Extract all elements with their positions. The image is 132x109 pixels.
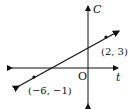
point-neg6-neg1 bbox=[32, 75, 35, 78]
graph-canvas: C O t (2, 3) (−6, −1) bbox=[0, 0, 132, 109]
c-axis-label: C bbox=[93, 3, 102, 16]
point-2-3 bbox=[104, 35, 107, 38]
origin-label: O bbox=[78, 70, 87, 83]
point-label-2-3: (2, 3) bbox=[101, 46, 128, 57]
t-axis-label: t bbox=[116, 71, 121, 84]
point-label-neg6-neg1: (−6, −1) bbox=[28, 85, 72, 96]
